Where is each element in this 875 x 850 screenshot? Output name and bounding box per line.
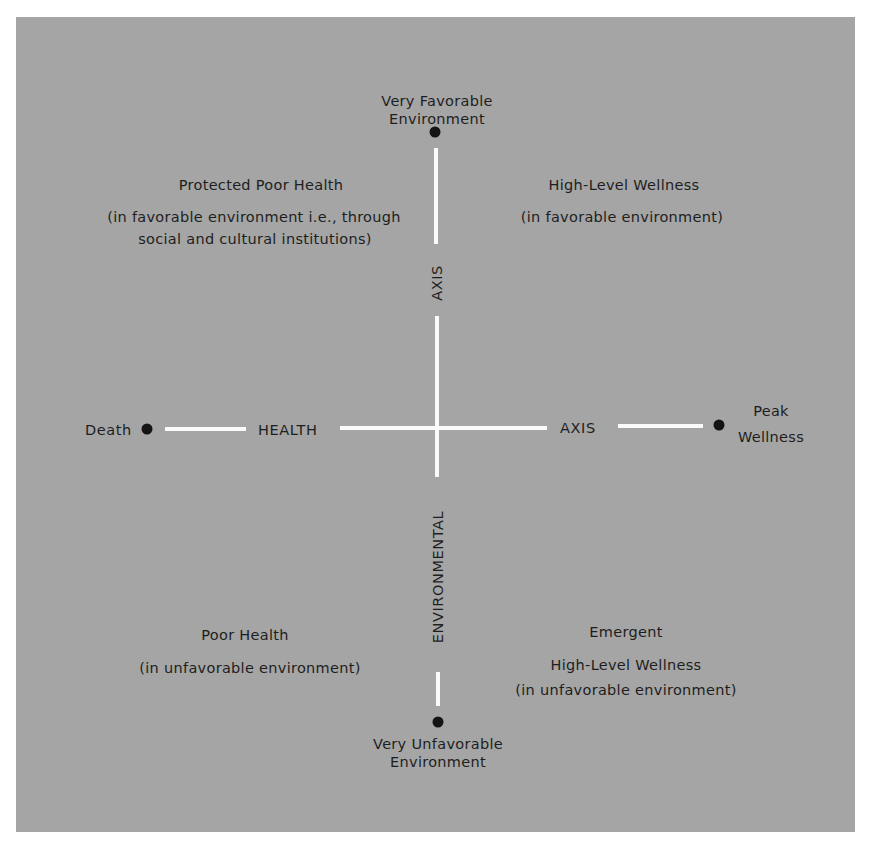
- quadrant-top-left-line2: social and cultural institutions): [138, 230, 372, 248]
- quadrant-top-right-line1: (in favorable environment): [521, 208, 723, 226]
- peak-wellness-line2: Wellness: [738, 428, 804, 446]
- quadrant-top-left-line1: (in favorable environment i.e., through: [107, 208, 401, 226]
- bottom-endpoint-line2: Environment: [390, 753, 486, 771]
- vertical-axis-line-top: [434, 148, 438, 244]
- quadrant-bottom-right-line1: High-Level Wellness: [551, 656, 702, 674]
- quadrant-bottom-right-line2: (in unfavorable environment): [515, 681, 736, 699]
- quadrant-bottom-left-title: Poor Health: [201, 626, 288, 644]
- quadrant-bottom-right-title: Emergent: [589, 623, 662, 641]
- death-label: Death: [85, 422, 132, 438]
- vertical-axis-label-axis: AXIS: [429, 265, 445, 301]
- horizontal-axis-label-health: HEALTH: [258, 422, 317, 438]
- vertical-axis-label-environmental: ENVIRONMENTAL: [430, 511, 446, 644]
- horizontal-axis-line-middle: [340, 426, 547, 430]
- horizontal-axis-line-left: [165, 427, 246, 431]
- death-dot: [142, 424, 153, 435]
- horizontal-axis-line-right: [618, 424, 703, 428]
- very-unfavorable-dot: [433, 717, 444, 728]
- peak-wellness-line1: Peak: [753, 402, 789, 420]
- vertical-axis-line-middle: [435, 316, 439, 477]
- quadrant-top-left-title: Protected Poor Health: [179, 176, 343, 194]
- horizontal-axis-label-axis: AXIS: [560, 420, 596, 436]
- peak-wellness-dot: [714, 420, 725, 431]
- vertical-axis-line-bottom: [436, 672, 440, 706]
- quadrant-top-right-title: High-Level Wellness: [549, 176, 700, 194]
- top-endpoint-line1: Very Favorable: [381, 92, 492, 110]
- very-favorable-dot: [430, 127, 441, 138]
- bottom-endpoint-line1: Very Unfavorable: [373, 735, 503, 753]
- quadrant-bottom-left-line1: (in unfavorable environment): [139, 659, 360, 677]
- top-endpoint-line2: Environment: [389, 110, 485, 128]
